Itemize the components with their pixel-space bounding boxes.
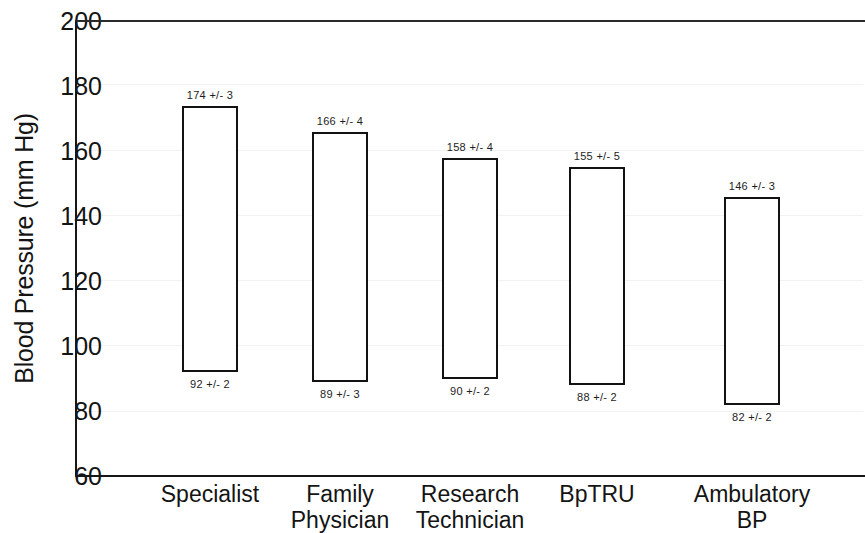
x-axis-line xyxy=(75,475,865,477)
range-bar-family-physician xyxy=(312,132,368,382)
systolic-value-label: 174 +/- 3 xyxy=(150,89,270,101)
diastolic-value-label: 90 +/- 2 xyxy=(410,385,530,397)
systolic-value-label: 166 +/- 4 xyxy=(280,115,400,127)
y-tick-label: 120 xyxy=(38,268,102,294)
y-tick-label: 100 xyxy=(38,333,102,359)
systolic-value-label: 158 +/- 4 xyxy=(410,141,530,153)
y-axis-tick-labels: 200 180 160 140 120 100 80 60 xyxy=(38,0,102,529)
range-bar-ambulatory-bp xyxy=(724,197,780,405)
y-tick-label: 80 xyxy=(38,398,102,424)
systolic-value-label: 146 +/- 3 xyxy=(692,180,812,192)
y-tick-label: 140 xyxy=(38,203,102,229)
diastolic-value-label: 88 +/- 2 xyxy=(537,391,657,403)
x-tick-label-bptru: BpTRU xyxy=(507,481,687,507)
scan-artifact-line xyxy=(77,84,863,85)
x-tick-label-ambulatory-bp: Ambulatory BP xyxy=(662,481,842,533)
y-tick-label: 160 xyxy=(38,138,102,164)
y-axis-line xyxy=(75,21,77,477)
range-bar-research-technician xyxy=(442,158,498,379)
diastolic-value-label: 82 +/- 2 xyxy=(692,411,812,423)
diastolic-value-label: 92 +/- 2 xyxy=(150,378,270,390)
systolic-value-label: 155 +/- 5 xyxy=(537,150,657,162)
range-bar-bptru xyxy=(569,167,625,385)
range-bar-specialist xyxy=(182,106,238,373)
y-tick-label: 180 xyxy=(38,73,102,99)
plot-top-border xyxy=(75,20,865,22)
diastolic-value-label: 89 +/- 3 xyxy=(280,388,400,400)
